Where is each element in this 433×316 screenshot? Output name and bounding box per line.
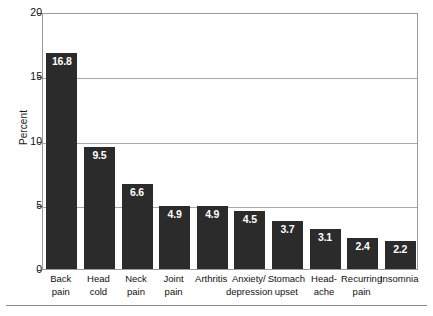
bar: 9.5 bbox=[84, 147, 115, 269]
bar: 16.8 bbox=[46, 53, 77, 269]
bottom-divider bbox=[6, 305, 427, 306]
bar: 4.5 bbox=[234, 211, 265, 269]
bar-value-label: 6.6 bbox=[122, 186, 153, 198]
plot-area: 16.89.56.64.94.94.53.73.12.42.2 bbox=[42, 13, 418, 270]
bar: 3.7 bbox=[272, 221, 303, 269]
bar: 2.2 bbox=[385, 241, 416, 269]
y-tick-mark bbox=[37, 270, 42, 271]
bar: 6.6 bbox=[122, 184, 153, 269]
bar-series: 16.89.56.64.94.94.53.73.12.42.2 bbox=[43, 14, 417, 269]
bar: 4.9 bbox=[159, 206, 190, 269]
bar-value-label: 4.9 bbox=[197, 208, 228, 220]
y-axis: 05101520 bbox=[0, 0, 42, 316]
bar-value-label: 3.1 bbox=[310, 231, 341, 243]
bar: 4.9 bbox=[197, 206, 228, 269]
x-category-label: Insomnia bbox=[376, 273, 422, 286]
bar-value-label: 2.2 bbox=[385, 243, 416, 255]
bar-value-label: 2.4 bbox=[347, 240, 378, 252]
x-axis-labels: BackpainHeadcoldNeckpainJointpainArthrit… bbox=[42, 273, 418, 303]
bar-value-label: 4.9 bbox=[159, 208, 190, 220]
bar: 2.4 bbox=[347, 238, 378, 269]
bar-chart-figure: Percent 05101520 16.89.56.64.94.94.53.73… bbox=[0, 0, 433, 316]
bar-value-label: 16.8 bbox=[46, 55, 77, 67]
bar-value-label: 4.5 bbox=[234, 213, 265, 225]
bar-value-label: 9.5 bbox=[84, 149, 115, 161]
bar-value-label: 3.7 bbox=[272, 223, 303, 235]
bar: 3.1 bbox=[310, 229, 341, 269]
